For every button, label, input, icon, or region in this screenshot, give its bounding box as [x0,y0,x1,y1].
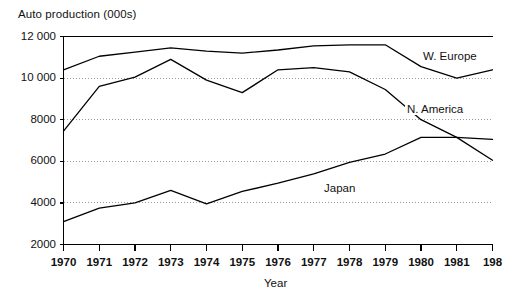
x-tick-label: 1972 [115,256,155,268]
series-label-w-europe: W. Europe [421,50,479,62]
x-tick-label: 1976 [258,256,298,268]
y-tick-label: 2000 [0,238,56,250]
y-tick-label: 12 000 [0,30,56,42]
y-tick-label: 8000 [0,113,56,125]
x-tick-label: 198 [473,256,513,268]
x-tick-label: 1970 [44,256,84,268]
x-tick-label: 1974 [187,256,227,268]
x-tick-label: 1980 [401,256,441,268]
y-tick-label: 4000 [0,196,56,208]
x-tick-label: 1978 [330,256,370,268]
x-tick-label: 1973 [151,256,191,268]
y-tick-label: 10 000 [0,71,56,83]
series-label-n-america: N. America [405,103,465,115]
chart-root: Auto production (000s) 20004000600080001… [0,0,520,302]
x-tick-label: 1971 [79,256,119,268]
y-tick-label: 6000 [0,154,56,166]
x-tick-label: 1975 [222,256,262,268]
series-label-japan: Japan [322,182,357,194]
x-tick-label: 1977 [294,256,334,268]
x-axis-title: Year [264,277,287,289]
x-tick-label: 1979 [365,256,405,268]
x-tick-label: 1981 [437,256,477,268]
